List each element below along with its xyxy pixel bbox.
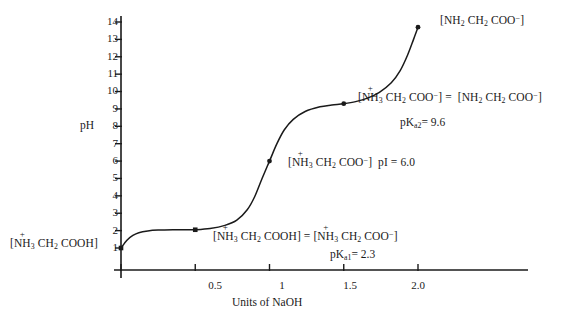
charge-plus-group: +NH [362,92,379,104]
titration-chart-figure: 14 13 12 11 10 9 8 7 6 5 4 3 2 1 pH 0.5 … [0,0,578,322]
plus-sign: + [298,149,303,158]
carboxylate: COO [339,156,364,168]
pk-value: = 2.3 [351,248,375,260]
annotation-pka1-equality: [+NH3 CH2 COOH] = [+NH3 CH2 COO−] [213,231,398,244]
y-tick-label: 9 [96,103,118,114]
x-tick-label: 1.5 [330,280,370,291]
data-point-marker [267,159,272,164]
data-point-marker [416,25,421,30]
data-point-marker [341,101,346,106]
y-tick-label: 5 [96,172,118,183]
y-tick-label: 10 [96,85,118,96]
carboxylate: COO [509,91,534,103]
carboxyl: COOH [264,230,297,242]
data-point-marker [119,246,124,251]
data-point-marker [193,227,198,232]
pi-value: pI = 6.0 [378,156,415,168]
y-tick-label: 13 [96,33,118,44]
y-tick-label: 14 [96,16,118,27]
carboxylate: COO [491,14,516,26]
charge-plus-group: +NH [317,231,334,243]
y-axis-title: pH [80,120,94,132]
carboxylate: COO [364,230,389,242]
nitrogen: NH [444,14,461,26]
pk-text: pK [400,116,414,128]
x-tick-label: 2.0 [398,280,438,291]
y-tick-label: 11 [96,68,118,79]
carboxylate: COO [409,91,434,103]
nitrogen: NH [462,91,479,103]
charge-plus-group: +NH [292,157,309,169]
data-point-markers [119,25,421,250]
annotation-pka2-equality: [+NH3 CH2 COO−] = [NH2 CH2 COO−] [358,92,542,105]
carbon: CH [468,14,484,26]
annotation-pka1-value: pKa1= 2.3 [330,249,375,262]
plus-sign: + [20,230,25,239]
carbon: CH [38,237,54,249]
carbon-subscript: 2 [502,96,506,105]
x-tick-label: 0.5 [195,280,235,291]
bracket-close: ] [520,14,524,26]
pk-text: pK [330,248,344,260]
bracket-close: ] [538,91,542,103]
carbon: CH [341,230,357,242]
y-tick-label: 4 [96,190,118,201]
x-tick-label: 1 [262,280,302,291]
pk-value: = 9.6 [421,116,445,128]
carboxyl: COOH [61,237,94,249]
annotation-pi-species: [+NH3 CH2 COO−] pI = 6.0 [288,157,415,170]
carbon: CH [485,91,501,103]
plus-sign: + [223,223,228,232]
plus-sign: + [368,84,373,93]
annotation-end-species: [NH2 CH2 COO−] [440,15,524,28]
titration-curve [121,27,418,248]
x-axis-title: Units of NaOH [232,297,302,309]
y-tick-label: 8 [96,120,118,131]
carbon: CH [241,230,257,242]
charge-plus-group: +NH [217,231,234,243]
annotation-pka2-value: pKa2= 9.6 [400,117,445,130]
charge-plus-group: +NH [14,238,31,250]
y-tick-label: 1 [96,242,118,253]
plus-sign: + [323,223,328,232]
y-tick-label: 6 [96,155,118,166]
y-tick-label: 7 [96,138,118,149]
y-tick-label: 2 [96,225,118,236]
y-tick-label: 12 [96,51,118,62]
bracket-close: ] [94,237,98,249]
y-tick-label: 3 [96,207,118,218]
carbon: CH [386,91,402,103]
annotation-start-species: [+NH3 CH2 COOH] [10,238,98,251]
carbon: CH [316,156,332,168]
equals-sign: = [445,91,452,103]
bracket-close: ] [394,230,398,242]
